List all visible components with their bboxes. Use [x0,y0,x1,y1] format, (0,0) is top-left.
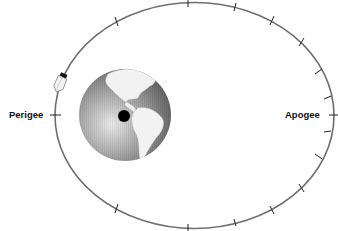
perigee-label: Perigee [9,110,43,120]
satellite-icon [52,72,70,94]
focus-dot [118,110,130,122]
orbit-diagram: Perigee Apogee [0,0,338,231]
apogee-label: Apogee [285,110,320,120]
